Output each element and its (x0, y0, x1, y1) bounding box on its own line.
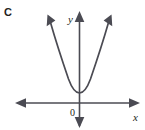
y-axis-up-arrow-icon (75, 11, 85, 22)
origin-label: 0 (70, 107, 75, 118)
y-axis-down-arrow-icon (75, 117, 85, 128)
coordinate-plane-graphic: y x 0 (0, 0, 145, 130)
x-axis-label: x (132, 111, 138, 123)
x-axis-right-arrow-icon (129, 98, 140, 108)
x-axis-left-arrow-icon (15, 98, 26, 108)
graph-figure: C y x 0 (0, 0, 145, 130)
y-axis-label: y (67, 13, 73, 25)
